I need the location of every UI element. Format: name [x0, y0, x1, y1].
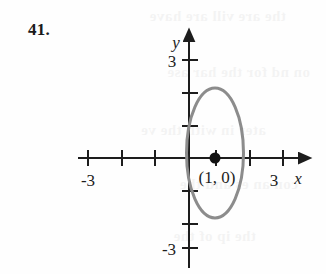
figure-root: the are vill are have on nd for the har …	[0, 0, 326, 274]
y-axis-label: y	[170, 33, 180, 52]
point-label-1-0: (1, 0)	[199, 168, 236, 187]
x-tick-label--3: -3	[81, 171, 95, 190]
x-axis-label: x	[293, 169, 302, 188]
y-tick-label--3: -3	[162, 240, 176, 259]
plotted-point-1-0	[210, 153, 221, 164]
y-tick-label-3: 3	[168, 52, 177, 71]
coordinate-plot: x y -3 3 3 -3	[0, 0, 326, 274]
x-tick-label-3: 3	[270, 171, 279, 190]
